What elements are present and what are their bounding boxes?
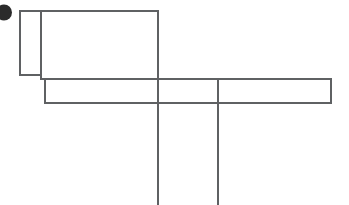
small-left-rectangle [20, 11, 41, 75]
dark-blob-icon [0, 5, 12, 21]
drawing-canvas: Wireframe Line Drawing [0, 0, 349, 205]
lower-wide-rectangle [45, 79, 331, 103]
upper-wide-rectangle [41, 11, 158, 79]
vector-layer [0, 0, 349, 205]
